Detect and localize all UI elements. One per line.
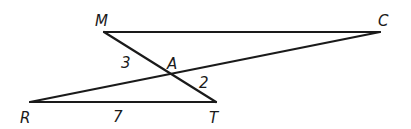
point-label-C: C — [378, 12, 389, 30]
measure-MA: 3 — [121, 54, 131, 72]
point-label-R: R — [20, 109, 30, 127]
measure-RT: 7 — [113, 108, 123, 126]
point-label-A: A — [166, 55, 177, 73]
point-label-T: T — [209, 109, 220, 127]
point-label-M: M — [95, 12, 108, 30]
measure-AT: 2 — [199, 74, 209, 92]
geometry-diagram: M C A R T 3 2 7 — [0, 0, 411, 129]
